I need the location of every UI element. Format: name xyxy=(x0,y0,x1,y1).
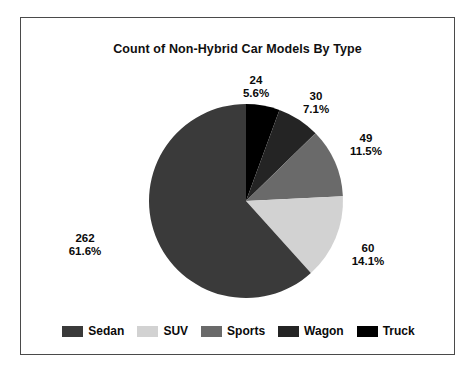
data-label-sports-percent: 11.5% xyxy=(333,145,399,158)
pie-chart xyxy=(21,18,456,356)
data-label-sedan-value: 262 xyxy=(49,232,121,245)
data-label-suv-percent: 14.1% xyxy=(335,255,401,268)
data-label-sedan-percent: 61.6% xyxy=(49,245,121,258)
chart-frame: Count of Non-Hybrid Car Models By Type 2… xyxy=(20,17,455,355)
legend-label-sedan: Sedan xyxy=(88,324,124,338)
legend-label-sports: Sports xyxy=(227,324,265,338)
data-label-sports: 49 11.5% xyxy=(333,132,399,158)
data-label-wagon-percent: 7.1% xyxy=(287,103,345,116)
legend-item-sports[interactable]: Sports xyxy=(201,324,265,338)
legend-item-sedan[interactable]: Sedan xyxy=(62,324,124,338)
legend-label-wagon: Wagon xyxy=(304,324,344,338)
data-label-truck: 24 5.6% xyxy=(227,74,285,100)
data-label-wagon-value: 30 xyxy=(287,90,345,103)
data-label-suv-value: 60 xyxy=(335,242,401,255)
legend-label-truck: Truck xyxy=(383,324,415,338)
chart-legend: SedanSUVSportsWagonTruck xyxy=(21,324,456,338)
data-label-truck-percent: 5.6% xyxy=(227,87,285,100)
data-label-truck-value: 24 xyxy=(227,74,285,87)
pie-slice-group xyxy=(149,104,343,298)
legend-swatch-wagon xyxy=(278,326,299,337)
data-label-wagon: 30 7.1% xyxy=(287,90,345,116)
data-label-suv: 60 14.1% xyxy=(335,242,401,268)
data-label-sedan: 262 61.6% xyxy=(49,232,121,258)
legend-swatch-suv xyxy=(137,326,158,337)
legend-item-wagon[interactable]: Wagon xyxy=(278,324,344,338)
legend-label-suv: SUV xyxy=(163,324,188,338)
legend-swatch-sedan xyxy=(62,326,83,337)
legend-item-suv[interactable]: SUV xyxy=(137,324,188,338)
data-label-sports-value: 49 xyxy=(333,132,399,145)
legend-item-truck[interactable]: Truck xyxy=(357,324,415,338)
legend-swatch-truck xyxy=(357,326,378,337)
legend-swatch-sports xyxy=(201,326,222,337)
